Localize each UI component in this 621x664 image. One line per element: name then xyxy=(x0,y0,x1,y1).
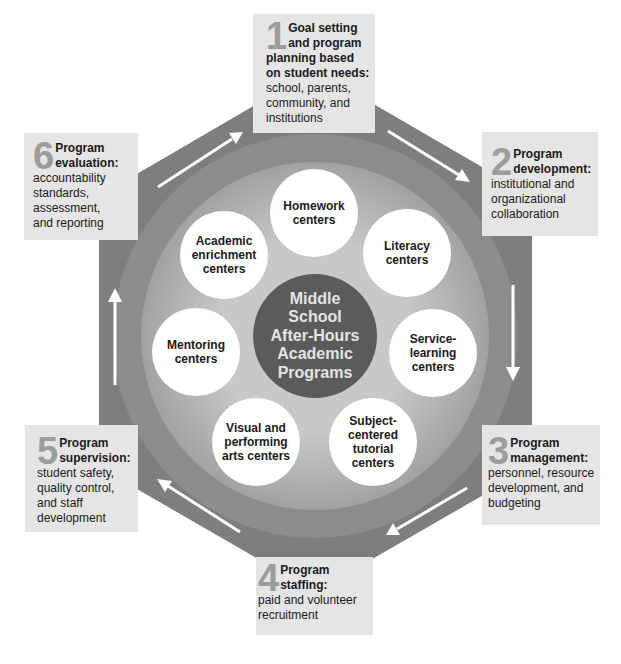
step-desc-line: community, and xyxy=(266,96,371,111)
step-5-program-supervision-box: 5 Program supervision: student safety, q… xyxy=(25,425,138,532)
center-title-line: After-Hours xyxy=(271,327,360,346)
center-title-line: School xyxy=(288,308,341,327)
center-title-line: Academic xyxy=(277,345,353,364)
step-desc-line: development xyxy=(37,511,136,526)
step-number: 2 xyxy=(491,147,512,177)
program-circle-subject-centered-tutorial: Subject- centered tutorial centers xyxy=(329,398,417,486)
step-desc-line: recruitment xyxy=(258,608,371,623)
program-label: centers xyxy=(175,352,218,366)
program-label: enrichment xyxy=(192,248,257,262)
step-2-program-development-box: 2 Program development: institutional and… xyxy=(482,132,598,236)
program-label: centers xyxy=(293,213,336,227)
step-title-line: on student needs: xyxy=(266,66,371,81)
center-title-line: Programs xyxy=(278,364,353,383)
after-hours-programs-diagram: Middle School After-Hours Academic Progr… xyxy=(0,0,621,664)
step-desc-line: institutional and xyxy=(491,177,594,192)
step-desc-line: and staff xyxy=(37,496,136,511)
program-label: Academic xyxy=(196,234,253,248)
program-label: Visual and xyxy=(226,421,286,435)
step-desc-line: institutions xyxy=(266,111,371,126)
step-desc-line: development, and xyxy=(488,481,598,496)
program-label: Literacy xyxy=(384,239,430,253)
program-label: centers xyxy=(412,360,455,374)
step-number: 4 xyxy=(258,563,279,593)
program-label: centers xyxy=(203,262,246,276)
center-title-line: Middle xyxy=(290,290,341,309)
program-label: centers xyxy=(352,456,395,470)
step-1-goal-setting-box: 1 Goal setting and program planning base… xyxy=(253,14,375,133)
step-number: 3 xyxy=(488,436,509,466)
step-desc-line: assessment, xyxy=(33,201,136,216)
program-label: performing xyxy=(224,435,287,449)
step-desc-line: quality control, xyxy=(37,481,136,496)
program-circle-literacy: Literacy centers xyxy=(363,209,451,297)
program-label: Mentoring xyxy=(167,338,225,352)
step-desc-line: budgeting xyxy=(488,496,598,511)
step-desc-line: student safety, xyxy=(37,466,136,481)
step-desc-line: and reporting xyxy=(33,216,136,231)
step-desc-line: personnel, resource xyxy=(488,466,598,481)
step-desc-line: collaboration xyxy=(491,207,594,222)
step-number: 6 xyxy=(33,141,54,171)
program-label: learning xyxy=(410,346,457,360)
program-label: centers xyxy=(386,253,429,267)
step-title-line: planning based xyxy=(266,51,371,66)
step-number: 5 xyxy=(37,436,58,466)
program-circle-homework: Homework centers xyxy=(270,169,358,257)
center-title-circle: Middle School After-Hours Academic Progr… xyxy=(253,274,377,398)
step-desc-line: school, parents, xyxy=(266,81,371,96)
program-circle-academic-enrichment: Academic enrichment centers xyxy=(180,211,268,299)
step-desc-line: organizational xyxy=(491,192,594,207)
program-label: Subject- xyxy=(349,414,396,428)
program-label: arts centers xyxy=(222,449,290,463)
program-label: Service- xyxy=(410,332,457,346)
program-circle-mentoring: Mentoring centers xyxy=(152,308,240,396)
program-label: tutorial xyxy=(353,442,394,456)
step-desc-line: paid and volunteer xyxy=(258,593,371,608)
step-4-program-staffing-box: 4 Program staffing: paid and volunteer r… xyxy=(256,557,373,635)
program-label: centered xyxy=(348,428,398,442)
step-desc-line: standards, xyxy=(33,186,136,201)
step-number: 1 xyxy=(266,21,287,51)
program-label: Homework xyxy=(283,199,344,213)
program-circle-service-learning: Service- learning centers xyxy=(389,309,477,397)
step-3-program-management-box: 3 Program management: personnel, resourc… xyxy=(482,425,600,525)
program-circle-visual-performing-arts: Visual and performing arts centers xyxy=(212,398,300,486)
step-desc-line: accountability xyxy=(33,171,136,186)
step-6-program-evaluation-box: 6 Program evaluation: accountability sta… xyxy=(24,133,138,240)
